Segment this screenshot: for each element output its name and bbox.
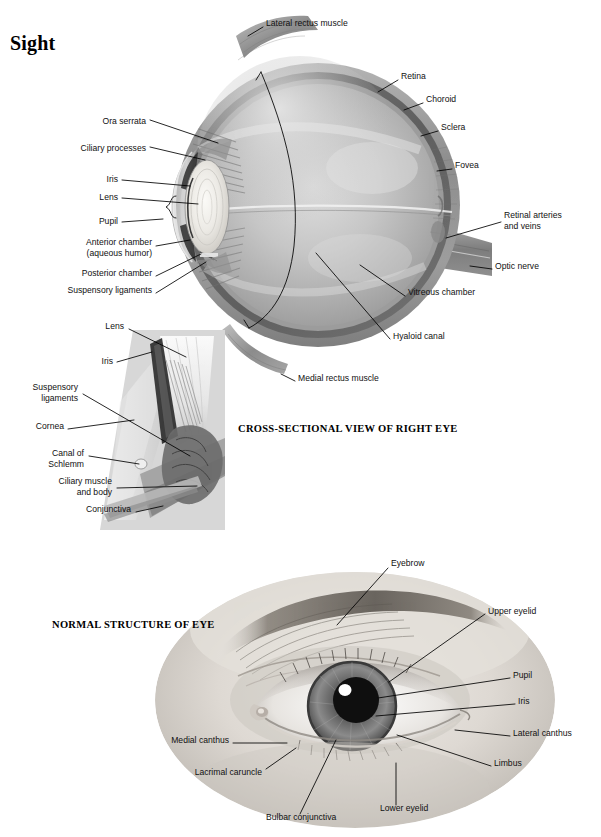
label-inset-conjunctiva: Conjunctiva bbox=[56, 504, 131, 515]
label-optic-nerve: Optic nerve bbox=[495, 261, 539, 272]
label-anterior-chamber: Anterior chamber (aqueous humor) bbox=[22, 237, 152, 258]
label-suspensory-ligaments: Suspensory ligaments bbox=[22, 285, 152, 296]
label-vitreous-chamber: Vitreous chamber bbox=[408, 287, 475, 298]
caption-cross-section: CROSS-SECTIONAL VIEW OF RIGHT EYE bbox=[238, 423, 458, 434]
label-inset-lens: Lens bbox=[64, 321, 124, 332]
corneal-highlight bbox=[339, 684, 352, 696]
label-lower-eyelid: Lower eyelid bbox=[380, 803, 428, 814]
label-inset-cornea: Cornea bbox=[8, 421, 64, 432]
label-lateral-canthus: Lateral canthus bbox=[513, 728, 572, 739]
label-sclera: Sclera bbox=[441, 122, 465, 133]
label-ora-serrata: Ora serrata bbox=[26, 116, 146, 127]
label-inset-ciliary-muscle-and-body: Ciliary muscle and body bbox=[26, 476, 112, 497]
label-lacrimal-caruncle: Lacrimal caruncle bbox=[152, 767, 262, 778]
page-root: Sight CROSS-SECTIONAL VIEW OF RIGHT EYE … bbox=[0, 0, 601, 837]
label-retinal-arteries-and-veins: Retinal arteries and veins bbox=[504, 210, 562, 231]
label-lens: Lens bbox=[18, 192, 118, 203]
label-ciliary-processes: Ciliary processes bbox=[26, 143, 146, 154]
label-hyaloid-canal: Hyaloid canal bbox=[393, 331, 445, 342]
label-inset-canal-of-schlemm: Canal of Schlemm bbox=[22, 448, 84, 469]
label-upper-eyelid: Upper eyelid bbox=[488, 606, 536, 617]
label-inset-suspensory-ligaments: Suspensory ligaments bbox=[8, 382, 78, 403]
pupil-shape bbox=[333, 677, 379, 723]
figure-anterior-detail-inset bbox=[100, 330, 225, 530]
label-photo-pupil: Pupil bbox=[513, 670, 532, 681]
figure-cross-section bbox=[166, 16, 492, 374]
label-iris: Iris bbox=[18, 174, 118, 185]
label-inset-iris: Iris bbox=[63, 356, 113, 367]
label-eyebrow: Eyebrow bbox=[391, 558, 424, 569]
label-fovea: Fovea bbox=[455, 160, 479, 171]
label-bulbar-conjunctiva: Bulbar conjunctiva bbox=[266, 812, 336, 823]
label-pupil: Pupil bbox=[18, 216, 118, 227]
label-lateral-rectus-muscle: Lateral rectus muscle bbox=[266, 18, 348, 29]
label-medial-rectus-muscle: Medial rectus muscle bbox=[298, 373, 379, 384]
label-photo-iris: Iris bbox=[518, 696, 529, 707]
caption-normal-structure: NORMAL STRUCTURE OF EYE bbox=[52, 619, 215, 630]
page-title: Sight bbox=[10, 32, 55, 55]
label-posterior-chamber: Posterior chamber bbox=[22, 268, 152, 279]
label-choroid: Choroid bbox=[426, 94, 456, 105]
label-medial-canthus: Medial canthus bbox=[139, 735, 229, 746]
label-retina: Retina bbox=[401, 71, 426, 82]
label-limbus: Limbus bbox=[494, 758, 522, 769]
